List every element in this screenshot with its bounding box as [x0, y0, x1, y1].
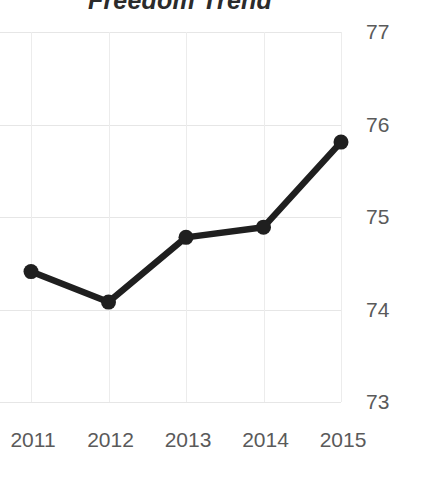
- data-point-marker: [256, 220, 271, 235]
- y-axis-tick-label: 74: [366, 299, 414, 320]
- x-axis-tick-label: 2015: [303, 428, 383, 452]
- y-axis-tick-label: 76: [366, 114, 414, 135]
- data-point-marker: [179, 230, 194, 245]
- x-axis-tick-label: 2013: [148, 428, 228, 452]
- y-axis-tick-label: 77: [366, 21, 414, 42]
- y-axis-tick-label: 73: [366, 391, 414, 412]
- series-line-freedom-trend: [0, 0, 422, 478]
- data-point-marker: [334, 135, 349, 150]
- x-axis-tick-label: 2014: [226, 428, 306, 452]
- data-point-marker: [24, 264, 39, 279]
- data-point-marker: [101, 295, 116, 310]
- x-axis-tick-label: 2011: [0, 428, 73, 452]
- line-chart: Freedom Trend 7776757473 201120122013201…: [0, 0, 422, 478]
- y-axis-tick-label: 75: [366, 206, 414, 227]
- plot-area: [31, 32, 341, 402]
- x-axis-tick-label: 2012: [71, 428, 151, 452]
